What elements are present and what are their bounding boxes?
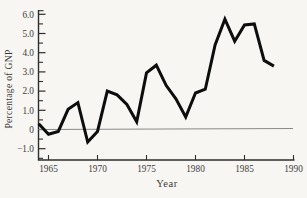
- x-tick-label: 1975: [137, 164, 156, 174]
- x-axis-title: Year: [156, 178, 178, 189]
- x-tick-label: 1980: [186, 164, 205, 174]
- x-tick-label: 1965: [39, 164, 58, 174]
- x-tick-label: 1985: [235, 164, 254, 174]
- y-tick-label: 1.0: [22, 106, 34, 116]
- y-tick-label: 4.0: [22, 48, 34, 58]
- gnp-line-chart-canvas: 6.05.04.03.02.01.00−1.019651970197519801…: [0, 0, 307, 198]
- x-tick-label: 1990: [284, 164, 303, 174]
- y-tick-label: 3.0: [22, 67, 34, 77]
- zero-line: [39, 129, 294, 130]
- x-tick-label: 1970: [88, 164, 107, 174]
- y-tick-label: 0: [29, 125, 34, 135]
- gnp-series-line: [39, 19, 274, 142]
- y-tick-label: 5.0: [22, 29, 34, 39]
- y-tick-label: 6.0: [22, 10, 34, 20]
- y-tick-label: 2.0: [22, 86, 34, 96]
- y-tick-label: −1.0: [17, 144, 34, 154]
- gnp-chart-figure: Percentage of GNP 6.05.04.03.02.01.00−1.…: [0, 0, 307, 198]
